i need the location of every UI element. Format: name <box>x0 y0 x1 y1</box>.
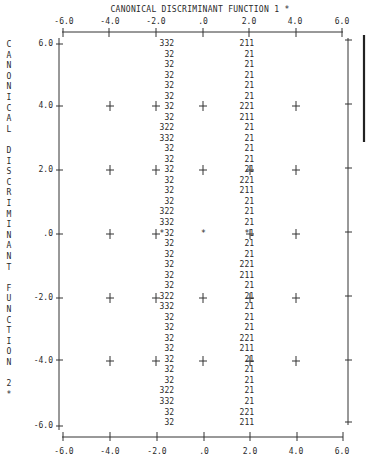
y-axis-title-letter: C <box>4 317 14 325</box>
boundary-right-cell: *1 <box>244 230 254 238</box>
boundary-right-cell: 211 <box>240 114 254 122</box>
y-axis-title-letter: A <box>4 242 14 250</box>
bottom-x-label: .0 <box>199 448 209 456</box>
boundary-right-cell: 21 <box>244 314 254 322</box>
y-label: -2.0 <box>17 294 53 302</box>
boundary-right-cell: 221 <box>240 335 254 343</box>
boundary-right-cell: 21 <box>244 51 254 59</box>
y-label: 4.0 <box>17 102 53 110</box>
boundary-right-cell: 21 <box>244 303 254 311</box>
top-x-label: 2.0 <box>242 18 256 26</box>
boundary-left-cell: 32 <box>164 240 174 248</box>
boundary-right-cell: 21 <box>244 398 254 406</box>
boundary-left-cell: 32 <box>164 366 174 374</box>
y-axis-title-letter: I <box>4 200 14 208</box>
y-label: .0 <box>17 230 53 238</box>
y-axis-title-letter: M <box>4 211 14 219</box>
boundary-right-cell: 211 <box>240 187 254 195</box>
boundary-left-cell: 332 <box>160 40 174 48</box>
bottom-x-label: -2.0 <box>147 448 166 456</box>
boundary-left-cell: 32 <box>164 82 174 90</box>
boundary-left-cell: 32 <box>164 103 174 111</box>
top-x-label: 6.0 <box>335 18 349 26</box>
boundary-right-cell: 21 <box>244 387 254 395</box>
boundary-left-cell: 32 <box>164 282 174 290</box>
boundary-left-cell: 32 <box>164 419 174 427</box>
boundary-left-cell: 32 <box>164 61 174 69</box>
boundary-right-cell: 21 <box>244 72 254 80</box>
bottom-x-label: -4.0 <box>100 448 119 456</box>
boundary-left-cell: 322 <box>160 124 174 132</box>
boundary-right-cell: 21 <box>244 324 254 332</box>
boundary-right-cell: 211 <box>240 40 254 48</box>
boundary-left-cell: 32 <box>164 314 174 322</box>
boundary-left-cell: 322 <box>160 293 174 301</box>
y-axis-title-letter: N <box>4 359 14 367</box>
boundary-left-cell: 32 <box>164 156 174 164</box>
boundary-right-cell: 21 <box>244 282 254 290</box>
boundary-left-cell: 32 <box>164 335 174 343</box>
boundary-left-cell: 32 <box>164 251 174 259</box>
y-axis-title-letter: N <box>4 306 14 314</box>
boundary-right-cell: 21 <box>244 93 254 101</box>
boundary-right-cell: 21 <box>244 124 254 132</box>
boundary-left-cell: 32 <box>164 187 174 195</box>
y-label: -6.0 <box>17 422 53 430</box>
y-axis-title-letter: 2 <box>4 380 14 388</box>
y-axis-title-letter: F <box>4 285 14 293</box>
boundary-right-cell: 21 <box>244 219 254 227</box>
boundary-right-cell: 21 <box>244 156 254 164</box>
top-x-label: -4.0 <box>100 18 119 26</box>
bottom-x-label: -6.0 <box>54 448 73 456</box>
boundary-left-cell: 32 <box>164 51 174 59</box>
y-axis-title-letter: A <box>4 115 14 123</box>
boundary-right-cell: 211 <box>240 272 254 280</box>
boundary-left-cell: 332 <box>160 398 174 406</box>
y-axis-title-letter: D <box>4 147 14 155</box>
boundary-right-cell: 221 <box>240 177 254 185</box>
y-label: -4.0 <box>17 357 53 365</box>
y-axis-title-letter: C <box>4 105 14 113</box>
y-axis-title-letter: * <box>4 391 14 399</box>
y-label: 6.0 <box>17 40 53 48</box>
boundary-left-cell: 32 <box>164 345 174 353</box>
boundary-left-cell: 32 <box>164 324 174 332</box>
top-x-label: -2.0 <box>146 18 165 26</box>
boundary-right-cell: 21 <box>244 135 254 143</box>
boundary-left-cell: 32 <box>164 261 174 269</box>
boundary-right-cell: 221 <box>240 103 254 111</box>
centroid-marker: * <box>201 230 206 238</box>
y-axis-title-letter: O <box>4 73 14 81</box>
y-label: 2.0 <box>17 166 53 174</box>
y-axis-title-letter: O <box>4 348 14 356</box>
y-axis-title-letter: N <box>4 62 14 70</box>
boundary-right-cell: 21 <box>244 356 254 364</box>
y-axis-title-letter: N <box>4 83 14 91</box>
boundary-left-cell: 332 <box>160 219 174 227</box>
boundary-left-cell: 32 <box>164 377 174 385</box>
boundary-right-cell: 221 <box>240 261 254 269</box>
top-x-label: 4.0 <box>288 18 302 26</box>
boundary-left-cell: 32 <box>164 198 174 206</box>
boundary-right-cell: 21 <box>244 145 254 153</box>
boundary-right-cell: 21 <box>244 251 254 259</box>
boundary-left-cell: 32 <box>164 145 174 153</box>
boundary-left-cell: *32 <box>160 230 174 238</box>
boundary-right-cell: 211 <box>240 419 254 427</box>
plot-frame <box>0 0 372 471</box>
y-axis-title-letter: I <box>4 94 14 102</box>
y-axis-title-letter: I <box>4 338 14 346</box>
boundary-right-cell: 21 <box>244 377 254 385</box>
boundary-right-cell: 221 <box>240 409 254 417</box>
bottom-x-label: 6.0 <box>335 448 349 456</box>
boundary-left-cell: 32 <box>164 356 174 364</box>
boundary-left-cell: 332 <box>160 303 174 311</box>
boundary-left-cell: 332 <box>160 135 174 143</box>
boundary-left-cell: 32 <box>164 409 174 417</box>
boundary-left-cell: 32 <box>164 166 174 174</box>
bottom-x-label: 2.0 <box>243 448 257 456</box>
y-axis-title-letter: L <box>4 126 14 134</box>
boundary-right-cell: 21 <box>244 82 254 90</box>
boundary-right-cell: 21 <box>244 293 254 301</box>
y-axis-title-letter: I <box>4 221 14 229</box>
